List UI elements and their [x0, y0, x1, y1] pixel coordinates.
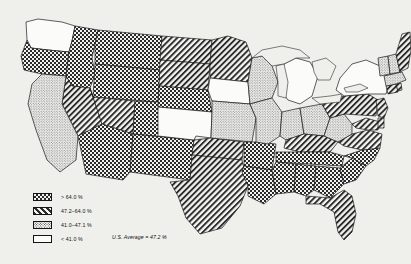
- state-WY[interactable]: [93, 64, 160, 102]
- state-WA[interactable]: [26, 19, 75, 52]
- state-SD[interactable]: [159, 60, 210, 90]
- legend-label: < 41.0 %: [61, 236, 83, 242]
- state-AR[interactable]: [244, 142, 276, 170]
- legend-row[interactable]: 47.2–64.0 %: [33, 204, 183, 218]
- us-average-annotation: U.S. Average = 47.2 %: [112, 234, 167, 240]
- choropleth-map-figure: > 64.0 % 47.2–64.0 % 41.0–47.1 % < 41.0 …: [0, 0, 411, 264]
- state-MN[interactable]: [210, 36, 252, 82]
- state-ND[interactable]: [160, 36, 212, 64]
- state-MD[interactable]: [352, 118, 380, 130]
- state-MS[interactable]: [272, 162, 296, 194]
- state-NJ[interactable]: [376, 98, 388, 118]
- state-KS[interactable]: [158, 107, 212, 140]
- state-AL[interactable]: [294, 164, 316, 196]
- legend-label: > 64.0 %: [61, 194, 83, 200]
- state-DE[interactable]: [378, 118, 384, 128]
- state-MT[interactable]: [95, 30, 162, 70]
- legend-label: 41.0–47.1 %: [61, 222, 92, 228]
- state-AZ[interactable]: [78, 124, 133, 180]
- state-MO[interactable]: [211, 101, 256, 142]
- state-NM[interactable]: [130, 134, 194, 180]
- state-IA[interactable]: [208, 78, 250, 104]
- legend-swatch-diagonal-hatch: [33, 207, 52, 215]
- legend-swatch-stipple: [33, 221, 52, 229]
- legend-row[interactable]: 41.0–47.1 %: [33, 218, 183, 232]
- legend-label: 47.2–64.0 %: [61, 208, 92, 214]
- lake-erie: [312, 94, 342, 104]
- legend-swatch-checkerboard: [33, 193, 52, 201]
- state-FL[interactable]: [306, 190, 356, 240]
- legend-row[interactable]: > 64.0 %: [33, 190, 183, 204]
- legend-swatch-blank: [33, 235, 52, 243]
